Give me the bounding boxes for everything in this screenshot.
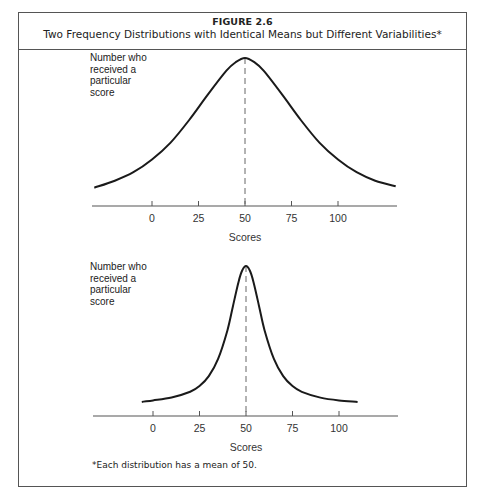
footnote: *Each distribution has a mean of 50.	[92, 460, 257, 470]
x-tick-label: 25	[194, 422, 206, 434]
charts-canvas: 0255075100Scores0255075100Scores	[0, 0, 485, 504]
narrow-distribution-curve	[142, 266, 358, 402]
x-tick-label: 75	[286, 212, 298, 224]
x-tick-label: 100	[330, 422, 348, 434]
x-axis-label: Scores	[229, 231, 262, 243]
x-tick-label: 100	[329, 212, 347, 224]
x-tick-label: 25	[193, 212, 205, 224]
x-tick-label: 50	[240, 422, 252, 434]
x-axis-label: Scores	[230, 441, 263, 453]
x-tick-label: 50	[239, 212, 251, 224]
x-tick-label: 0	[149, 212, 155, 224]
x-tick-label: 0	[150, 422, 156, 434]
x-tick-label: 75	[287, 422, 299, 434]
